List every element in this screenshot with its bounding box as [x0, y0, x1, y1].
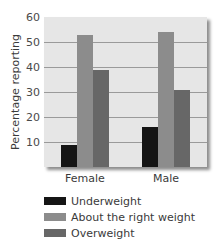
- legend-label: Overweight: [71, 227, 135, 240]
- bar-female-overweight: [93, 70, 109, 168]
- plot-area: [44, 17, 207, 167]
- legend-swatch: [44, 197, 66, 205]
- y-tick-50: 50: [20, 36, 40, 49]
- bar-male-underweight: [142, 127, 158, 167]
- x-label-female: Female: [65, 172, 105, 185]
- bar-female-about-right: [77, 35, 93, 168]
- bar-female-underweight: [61, 145, 77, 168]
- legend-item-about-right: About the right weight: [44, 209, 195, 225]
- legend-item-underweight: Underweight: [44, 193, 195, 209]
- bar-male-about-right: [158, 32, 174, 167]
- legend-label: Underweight: [71, 195, 141, 208]
- y-tick-30: 30: [20, 86, 40, 99]
- legend-swatch: [44, 213, 66, 221]
- x-label-male: Male: [153, 172, 179, 185]
- y-tick-10: 10: [20, 136, 40, 149]
- y-tick-20: 20: [20, 111, 40, 124]
- legend: Underweight About the right weight Overw…: [44, 193, 195, 241]
- y-tick-40: 40: [20, 61, 40, 74]
- legend-item-overweight: Overweight: [44, 225, 195, 241]
- legend-label: About the right weight: [71, 211, 195, 224]
- gridline: [44, 67, 207, 68]
- y-tick-60: 60: [20, 11, 40, 24]
- gridline: [44, 42, 207, 43]
- legend-swatch: [44, 229, 66, 237]
- bar-male-overweight: [174, 90, 190, 168]
